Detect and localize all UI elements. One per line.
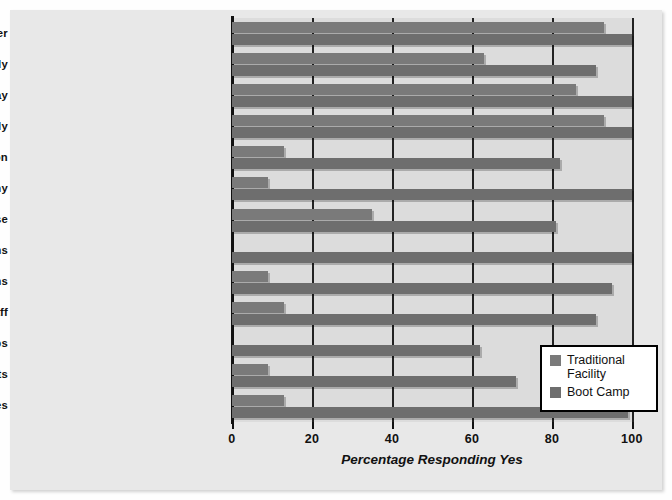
bar-traditional-facility bbox=[232, 302, 284, 313]
category-label: Juveniles wear military uniforms bbox=[0, 244, 8, 256]
x-axis-tick-label: 20 bbox=[305, 432, 320, 446]
bar-traditional-facility bbox=[232, 146, 284, 157]
bar-boot-camp bbox=[232, 65, 596, 76]
legend-label: Traditional Facility bbox=[567, 353, 656, 381]
bar-boot-camp bbox=[232, 376, 516, 387]
bar-boot-camp bbox=[232, 345, 480, 356]
bar-traditional-facility bbox=[232, 271, 268, 282]
bar-traditional-facility bbox=[232, 395, 284, 406]
chart-root: 020406080100 Set time for daily showerSe… bbox=[0, 0, 672, 500]
category-label: Summary punishments bbox=[0, 368, 8, 380]
x-axis-tick bbox=[632, 422, 634, 429]
bar-traditional-facility bbox=[232, 84, 576, 95]
x-axis-title: Percentage Responding Yes bbox=[341, 452, 523, 467]
bar-boot-camp bbox=[232, 314, 596, 325]
bar-traditional-facility bbox=[232, 53, 484, 64]
category-label: March to activities bbox=[0, 399, 8, 411]
bar-boot-camp bbox=[232, 189, 632, 200]
x-axis-tick-label: 80 bbox=[545, 432, 560, 446]
category-label: Challenge/adventure/ropes course bbox=[0, 213, 8, 225]
x-axis-tick-label: 60 bbox=[465, 432, 480, 446]
category-label: Formal graduation bbox=[0, 151, 8, 163]
category-label: Set time for daily study bbox=[0, 58, 8, 70]
bar-traditional-facility bbox=[232, 364, 268, 375]
bar-boot-camp bbox=[232, 34, 632, 45]
legend-label: Boot Camp bbox=[567, 385, 630, 399]
legend-swatch-boot-camp bbox=[550, 387, 561, 398]
bar-boot-camp bbox=[232, 96, 632, 107]
legend-item: Traditional Facility bbox=[550, 353, 656, 381]
x-axis-tick bbox=[552, 422, 554, 429]
x-axis-tick bbox=[312, 422, 314, 429]
x-axis-tick bbox=[232, 422, 234, 429]
x-axis-tick-label: 100 bbox=[621, 432, 643, 446]
category-label: Military titles for staff bbox=[0, 306, 8, 318]
legend-box: Traditional Facility Boot Camp bbox=[540, 345, 658, 412]
bar-boot-camp bbox=[232, 283, 612, 294]
bar-boot-camp bbox=[232, 221, 556, 232]
category-label: Set time for daily shower bbox=[0, 27, 8, 39]
bar-traditional-facility bbox=[232, 115, 604, 126]
category-label: Get up at same time each day bbox=[0, 89, 8, 101]
bar-traditional-facility bbox=[232, 209, 372, 220]
x-axis-tick bbox=[392, 422, 394, 429]
category-label: Beds inspected daily bbox=[0, 120, 8, 132]
x-axis-tick bbox=[472, 422, 474, 429]
category-label: Drill and ceremony bbox=[0, 182, 8, 194]
bar-boot-camp bbox=[232, 158, 560, 169]
legend-swatch-traditional-facility bbox=[550, 355, 561, 366]
legend-item: Boot Camp bbox=[550, 385, 656, 399]
bar-traditional-facility bbox=[232, 177, 268, 188]
bar-boot-camp bbox=[232, 252, 632, 263]
category-label: Staff wear military uniforms bbox=[0, 275, 8, 287]
bar-boot-camp bbox=[232, 127, 632, 138]
category-label: Enter in groups bbox=[0, 337, 8, 349]
x-axis-tick-label: 40 bbox=[385, 432, 400, 446]
x-axis-tick-label: 0 bbox=[228, 432, 235, 446]
bar-traditional-facility bbox=[232, 22, 604, 33]
